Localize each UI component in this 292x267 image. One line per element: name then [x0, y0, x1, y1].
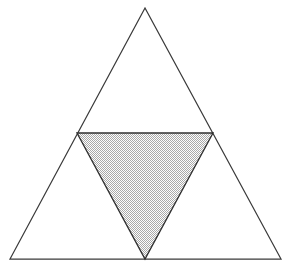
figure-root: [0, 0, 292, 267]
geometry-canvas: [0, 0, 292, 267]
